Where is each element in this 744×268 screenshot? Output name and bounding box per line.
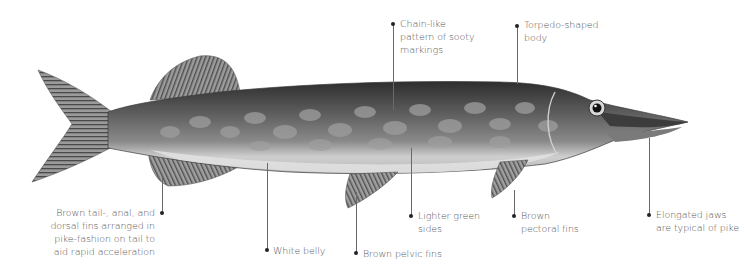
callout-pectoral-fins: Brown pectoral fins xyxy=(521,209,579,235)
leader-dot xyxy=(391,22,395,26)
leader-line xyxy=(393,24,394,110)
callout-tail-fins: Brown tail-, anal, and dorsal fins arran… xyxy=(50,206,155,258)
callout-white-belly: White belly xyxy=(273,244,325,257)
leader-dot xyxy=(265,248,269,252)
leader-line xyxy=(517,26,518,84)
callout-chain-pattern: Chain-like pattern of sooty markings xyxy=(400,17,474,56)
leader-line xyxy=(649,138,650,214)
leader-line xyxy=(356,192,357,252)
leader-dot xyxy=(515,24,519,28)
callout-green-sides: Lighter green sides xyxy=(418,209,480,235)
callout-pelvic-fins: Brown pelvic fins xyxy=(363,247,442,260)
leader-line xyxy=(162,178,163,213)
callout-torpedo-body: Torpedo-shaped body xyxy=(524,18,599,44)
eye xyxy=(589,100,605,116)
leader-line xyxy=(411,148,412,216)
leader-line xyxy=(514,190,515,216)
leader-dot xyxy=(354,251,358,255)
tail-fin xyxy=(32,70,114,182)
leader-dot xyxy=(409,214,413,218)
pelvic-fin xyxy=(346,172,398,208)
leader-line xyxy=(267,163,268,249)
leader-dot xyxy=(160,211,164,215)
leader-dot xyxy=(512,214,516,218)
callout-jaws: Elongated jaws are typical of pike xyxy=(656,208,739,234)
leader-dot xyxy=(647,213,651,217)
